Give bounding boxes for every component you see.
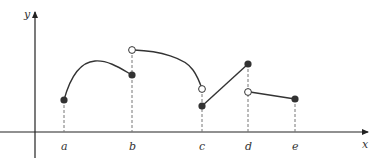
filled-point-c — [198, 102, 205, 109]
guide-lines — [64, 50, 295, 132]
tick-label-e: e — [292, 140, 299, 153]
function-curve — [64, 50, 295, 106]
filled-point-e — [291, 95, 298, 102]
graph-canvas: y x a — [0, 0, 375, 158]
tick-label-b: b — [129, 140, 136, 153]
segment-b-c — [134, 50, 202, 89]
tick-label-c: c — [199, 140, 205, 153]
y-axis-label: y — [23, 8, 31, 21]
piecewise-function-graph: y x a — [0, 0, 375, 158]
segment-d-e — [250, 92, 295, 99]
filled-point-a — [60, 96, 67, 103]
open-point-b — [129, 47, 136, 54]
filled-point-b — [128, 71, 135, 78]
filled-point-d — [244, 60, 251, 67]
x-axis-label: x — [362, 138, 369, 151]
points — [60, 47, 298, 110]
open-point-d — [245, 89, 252, 96]
tick-label-a: a — [61, 140, 68, 153]
segment-a-b — [64, 61, 132, 100]
segment-c-d — [202, 64, 248, 106]
open-point-c — [199, 86, 206, 93]
tick-labels: a b c d e — [61, 140, 299, 153]
tick-label-d: d — [245, 140, 252, 153]
